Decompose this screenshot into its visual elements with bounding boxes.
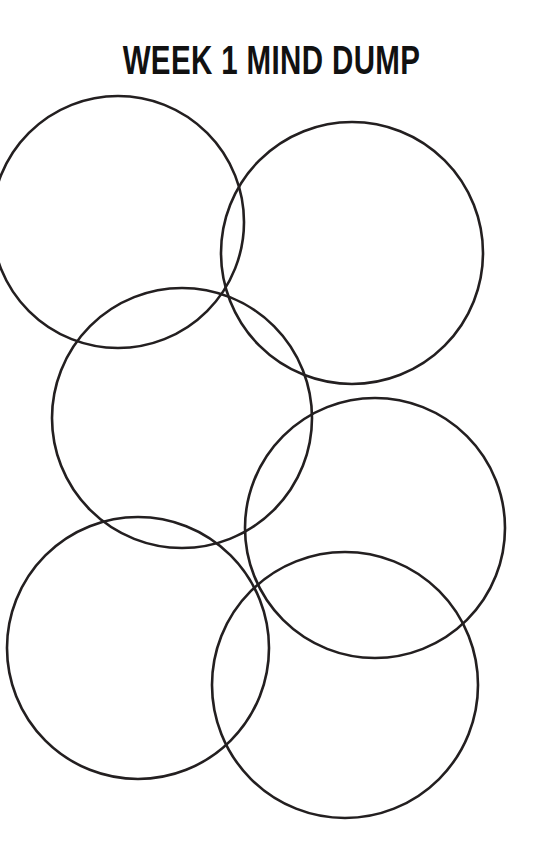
bubble-top-right[interactable] [221,122,483,384]
bubble-bottom-right[interactable] [212,552,478,818]
bubble-bottom-left[interactable] [7,517,269,779]
bubble-middle-right[interactable] [245,398,505,658]
bubble-middle-left[interactable] [52,288,312,548]
bubble-cluster [0,0,543,866]
bubble-top-left[interactable] [0,96,244,348]
mind-dump-worksheet: WEEK 1 MIND DUMP [0,0,543,866]
